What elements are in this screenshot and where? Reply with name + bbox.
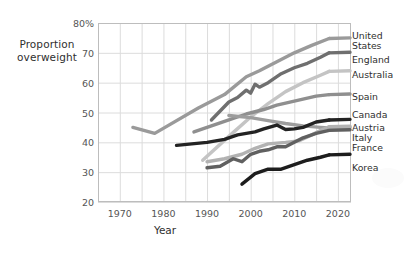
legend-item-canada[interactable]: Canada xyxy=(352,110,387,120)
legend-item-label-line2: States xyxy=(352,41,383,51)
legend-item-united-states[interactable]: UnitedStates xyxy=(352,31,383,52)
chart-page: Proportion overweight 80%706050403020 19… xyxy=(0,0,414,253)
legend-item-label: Australia xyxy=(352,70,393,80)
legend-item-label: Canada xyxy=(352,110,387,120)
chart-legend: UnitedStatesEnglandAustraliaSpainCanadaA… xyxy=(352,0,414,253)
legend-item-france[interactable]: France xyxy=(352,143,383,153)
legend-item-england[interactable]: England xyxy=(352,55,390,65)
legend-item-label: England xyxy=(352,55,390,65)
legend-item-label: Spain xyxy=(352,92,378,102)
legend-item-label: Korea xyxy=(352,163,378,173)
legend-item-label: France xyxy=(352,143,383,153)
legend-item-spain[interactable]: Spain xyxy=(352,92,378,102)
legend-item-australia[interactable]: Australia xyxy=(352,70,393,80)
legend-item-korea[interactable]: Korea xyxy=(352,163,378,173)
